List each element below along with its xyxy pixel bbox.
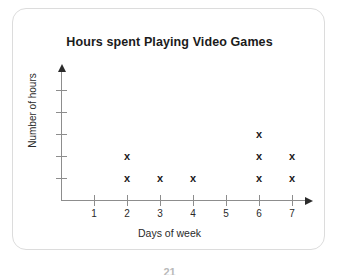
- x-tick: [226, 195, 227, 206]
- data-marker-x: x: [185, 173, 201, 184]
- x-axis-arrow-icon: [305, 197, 313, 205]
- data-marker-x: x: [251, 151, 267, 162]
- y-axis-arrow-icon: [58, 64, 66, 72]
- x-tick-label: 1: [84, 208, 104, 219]
- y-tick: [56, 178, 67, 179]
- y-tick: [56, 134, 67, 135]
- x-tick: [160, 195, 161, 206]
- y-axis-label: Number of hours: [27, 56, 38, 166]
- x-axis-line: [61, 200, 306, 201]
- x-tick-label: 7: [282, 208, 302, 219]
- x-tick-label: 2: [117, 208, 137, 219]
- x-tick: [259, 195, 260, 206]
- x-tick: [127, 195, 128, 206]
- x-axis-label: Days of week: [13, 227, 326, 239]
- x-tick: [94, 195, 95, 206]
- page-number: 21: [0, 266, 339, 275]
- x-tick-label: 6: [249, 208, 269, 219]
- data-marker-x: x: [284, 151, 300, 162]
- data-marker-x: x: [152, 173, 168, 184]
- data-marker-x: x: [119, 173, 135, 184]
- y-tick: [56, 156, 67, 157]
- data-marker-x: x: [251, 129, 267, 140]
- plot-area: Number of hours Days of week 1234567 xxx…: [13, 9, 326, 251]
- y-tick: [56, 112, 67, 113]
- data-marker-x: x: [251, 173, 267, 184]
- x-tick-label: 4: [183, 208, 203, 219]
- y-tick: [56, 90, 67, 91]
- chart-card: Hours spent Playing Video Games Number o…: [12, 8, 325, 250]
- x-tick: [292, 195, 293, 206]
- x-tick-label: 5: [216, 208, 236, 219]
- x-tick-label: 3: [150, 208, 170, 219]
- x-tick: [193, 195, 194, 206]
- data-marker-x: x: [284, 173, 300, 184]
- data-marker-x: x: [119, 151, 135, 162]
